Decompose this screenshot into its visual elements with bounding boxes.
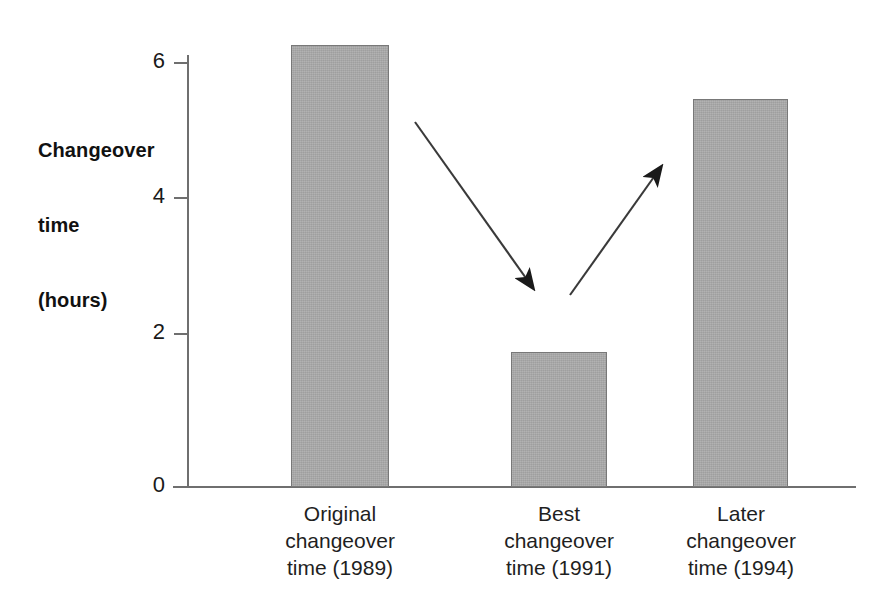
y-axis-title-line-2: time [38,213,155,238]
x-category-label-1-line-1: Best [479,500,639,527]
x-category-label-0-line-1: Original [260,500,420,527]
x-category-label-2-line-2: changeover [661,527,821,554]
x-category-label-2: Later changeover time (1994) [661,500,821,581]
decrease-arrow [415,122,533,288]
y-tick-0: 0 [120,486,187,488]
bar-best-changeover-time-1991 [511,352,607,487]
x-category-label-0: Original changeover time (1989) [260,500,420,581]
y-tick-mark-0 [174,486,187,488]
bar-original-changeover-time-1989 [291,45,389,487]
y-axis-title-line-3: (hours) [38,288,155,313]
increase-arrow [570,167,661,295]
y-axis-title-line-1: Changeover [38,138,155,163]
y-tick-label-4: 4 [131,185,165,207]
x-category-label-1-line-2: changeover [479,527,639,554]
y-tick-mark-6 [174,62,187,64]
y-tick-label-0: 0 [131,474,165,496]
bar-later-changeover-time-1994 [693,99,788,487]
x-category-label-1: Best changeover time (1991) [479,500,639,581]
x-category-label-0-line-2: changeover [260,527,420,554]
x-category-label-2-line-3: time (1994) [661,554,821,581]
y-tick-4: 4 [120,197,187,199]
x-category-label-2-line-1: Later [661,500,821,527]
y-tick-label-6: 6 [131,50,165,72]
chart-canvas: Changeover time (hours) 6 4 2 0 [0,0,884,601]
y-tick-6: 6 [120,62,187,64]
y-tick-label-2: 2 [131,321,165,343]
y-tick-2: 2 [120,333,187,335]
y-axis-line [187,55,189,488]
y-tick-mark-2 [174,333,187,335]
x-category-label-0-line-3: time (1989) [260,554,420,581]
x-category-label-1-line-3: time (1991) [479,554,639,581]
y-tick-mark-4 [174,197,187,199]
